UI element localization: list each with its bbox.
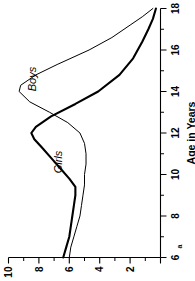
y-axis-tick-labels: 246810 xyxy=(3,266,136,278)
series-label-girls: Girls xyxy=(51,150,63,173)
x-tick-label: 18 xyxy=(169,2,180,14)
series-label-boys: Boys xyxy=(25,66,37,91)
x-axis-tick-labels: 681012141618 xyxy=(169,2,180,260)
series-line-girls xyxy=(31,8,156,257)
y-tick-label: 10 xyxy=(3,266,14,278)
chart-svg: 681012141618 246810 BoysGirls Age in Yea… xyxy=(0,0,195,281)
x-tick-label: 12 xyxy=(169,127,180,139)
series-annotations: BoysGirls xyxy=(25,66,63,173)
series-line-boys xyxy=(19,8,153,257)
y-tick-label: 4 xyxy=(94,266,105,272)
x-tick-label: 10 xyxy=(169,168,180,180)
x-tick-label: 6 xyxy=(169,254,180,260)
y-tick-label: 6 xyxy=(63,266,74,272)
x-axis-title: Age in Years xyxy=(184,101,195,164)
y-tick-label: 8 xyxy=(33,266,44,272)
x-tick-label: 8 xyxy=(169,212,180,218)
growth-velocity-chart: 681012141618 246810 BoysGirls Age in Yea… xyxy=(0,0,195,281)
rotated-plot-wrapper: 681012141618 246810 BoysGirls Age in Yea… xyxy=(0,0,195,281)
x-tick-label: 16 xyxy=(169,44,180,56)
y-tick-label: 2 xyxy=(124,266,135,272)
figure-canvas: 681012141618 246810 BoysGirls Age in Yea… xyxy=(0,0,195,281)
x-tick-label: 14 xyxy=(169,85,180,97)
panel-letter: a xyxy=(176,245,183,249)
